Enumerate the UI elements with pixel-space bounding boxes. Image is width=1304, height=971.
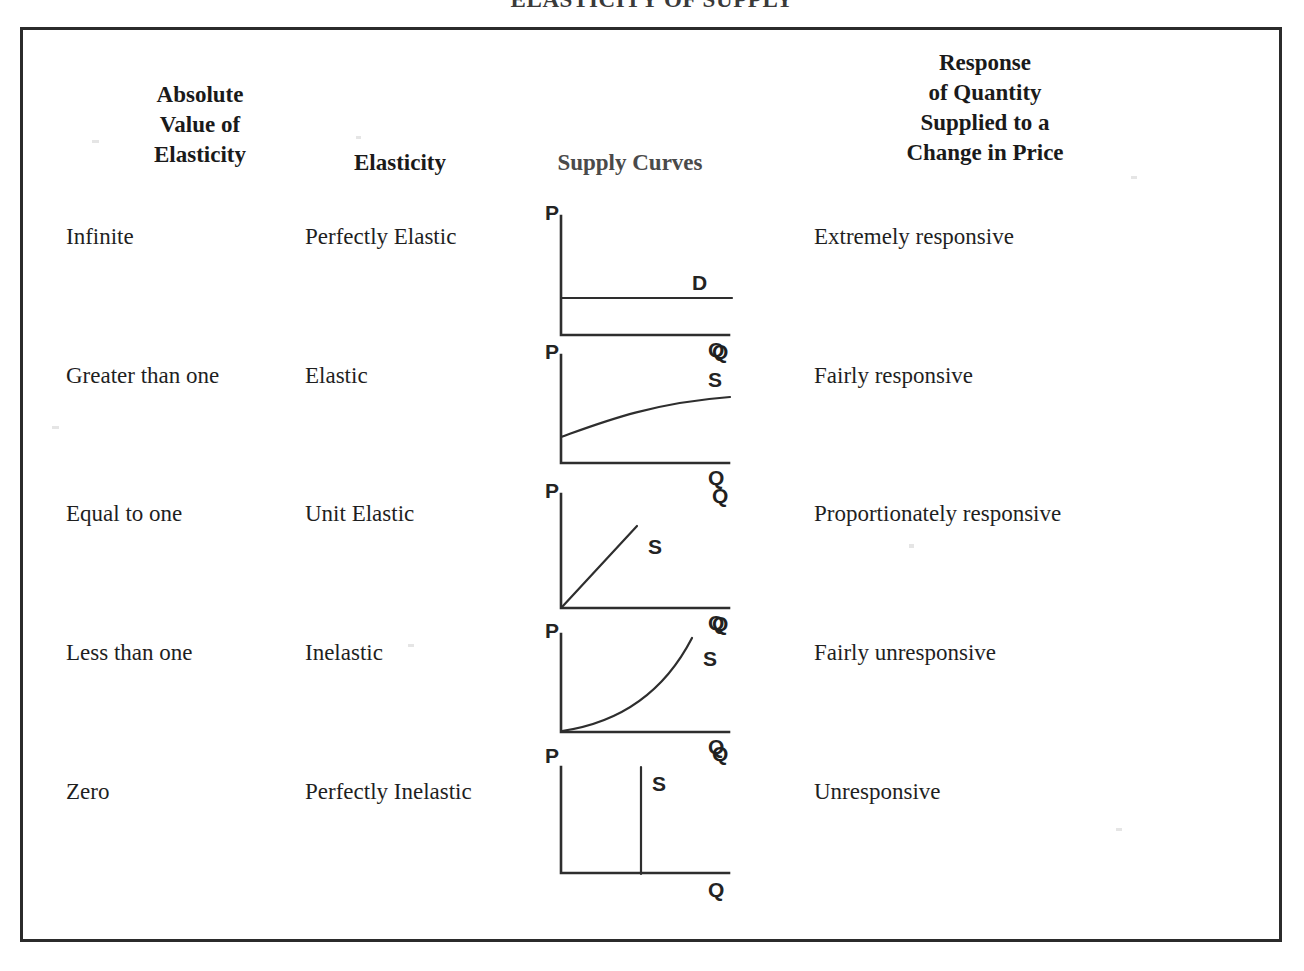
supply-curve-diagram-perfectly-inelastic: P S Q bbox=[540, 745, 750, 900]
y-axis-label: P bbox=[545, 619, 559, 642]
table-row: Fairly responsive bbox=[814, 363, 973, 389]
axes-icon bbox=[561, 494, 729, 608]
curve-label-d: D bbox=[692, 271, 707, 294]
scan-speckle bbox=[408, 644, 414, 647]
table-row: Elastic bbox=[305, 363, 368, 389]
table-row: Proportionately responsive bbox=[814, 501, 1061, 527]
y-axis-label: P bbox=[545, 201, 559, 224]
x-axis-label-overflow-4: Q bbox=[712, 741, 728, 767]
x-axis-label: Q bbox=[708, 878, 724, 901]
scan-speckle bbox=[909, 544, 914, 548]
figure-title: ELASTICITY OF SUPPLY bbox=[0, 0, 1304, 13]
x-axis-label-overflow-2: Q bbox=[712, 483, 728, 509]
axes-icon bbox=[561, 355, 729, 463]
scan-speckle bbox=[92, 140, 99, 143]
curve-label-s: S bbox=[648, 535, 662, 558]
table-row: Fairly unresponsive bbox=[814, 640, 996, 666]
axes-icon bbox=[561, 767, 729, 873]
table-row: Greater than one bbox=[66, 363, 219, 389]
supply-curve-diagram-perfectly-elastic: P D Q bbox=[540, 202, 750, 352]
table-row: Unit Elastic bbox=[305, 501, 414, 527]
table-row: Infinite bbox=[66, 224, 134, 250]
column-header-response: Response of Quantity Supplied to a Chang… bbox=[840, 48, 1130, 168]
table-row: Equal to one bbox=[66, 501, 182, 527]
table-row: Zero bbox=[66, 779, 109, 805]
y-axis-label: P bbox=[545, 479, 559, 502]
y-axis-label: P bbox=[545, 340, 559, 363]
table-row: Extremely responsive bbox=[814, 224, 1014, 250]
curve-label-s: S bbox=[703, 647, 717, 670]
scan-speckle bbox=[356, 136, 361, 139]
column-header-supply-curves: Supply Curves bbox=[500, 148, 760, 178]
x-axis-label-overflow-1: Q bbox=[712, 339, 728, 365]
scan-speckle bbox=[1116, 828, 1122, 831]
inelastic-curve-icon bbox=[562, 638, 692, 731]
table-row: Inelastic bbox=[305, 640, 383, 666]
table-row: Perfectly Inelastic bbox=[305, 779, 472, 805]
curve-label-s: S bbox=[652, 772, 666, 795]
scan-speckle bbox=[52, 426, 59, 429]
table-row: Less than one bbox=[66, 640, 192, 666]
curve-label-s: S bbox=[708, 368, 722, 391]
y-axis-label: P bbox=[545, 744, 559, 767]
column-header-absolute-value: Absolute Value of Elasticity bbox=[88, 80, 312, 170]
unit-elastic-line-icon bbox=[562, 526, 637, 607]
elastic-curve-icon bbox=[561, 397, 730, 437]
table-row: Unresponsive bbox=[814, 779, 940, 805]
column-header-elasticity: Elasticity bbox=[280, 148, 520, 178]
scan-speckle bbox=[1131, 176, 1137, 179]
table-row: Perfectly Elastic bbox=[305, 224, 456, 250]
x-axis-label-overflow-3: Q bbox=[712, 611, 728, 637]
